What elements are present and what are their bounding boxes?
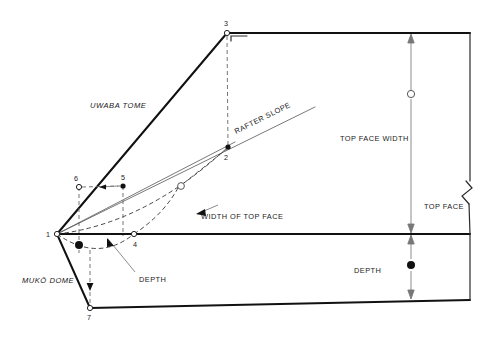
dim-arrow-up-depth-icon — [408, 235, 414, 244]
muko-dome-edge — [57, 234, 90, 308]
dashed-curve-O-to-2 — [184, 148, 228, 183]
point-marker-4-icon — [131, 231, 136, 236]
point-label-3: 3 — [224, 19, 228, 28]
dim-arrow-up-top-face-width-icon — [408, 34, 414, 43]
label-top-face: TOP FACE — [424, 202, 464, 211]
point-label-1: 1 — [46, 230, 50, 239]
point-marker-7-icon — [87, 305, 92, 310]
label-muko-dome: MUKŌ DOME — [22, 276, 75, 285]
arrow-head-5-to-6-icon — [99, 185, 106, 190]
uwaba-tome-edge — [57, 33, 227, 234]
dashed-curve-4-to-O — [134, 188, 178, 234]
roof-geometry-drawing: 1 2 3 4 5 6 7 UWABA TOME MUKŌ DOME RAFTE… — [0, 0, 497, 337]
point-marker-6-icon — [76, 184, 81, 189]
right-edge-mid — [469, 204, 470, 234]
depth-arc-dot-marker-icon — [75, 241, 83, 249]
dim-arrow-down-depth-icon — [408, 290, 414, 299]
label-uwaba-tome: UWABA TOME — [90, 101, 147, 110]
right-angle-tick-icon — [231, 36, 247, 41]
point-marker-1-icon — [54, 231, 59, 236]
arrow-head-down-to-7-icon — [87, 283, 94, 291]
break-symbol-icon — [462, 181, 472, 204]
point-marker-2-icon — [225, 144, 230, 149]
label-rafter-slope: RAFTER SLOPE — [233, 100, 292, 136]
point-label-4: 4 — [133, 240, 137, 249]
point-label-2: 2 — [224, 153, 228, 162]
dashed-arc-1-4-depth — [57, 234, 134, 249]
diagram-canvas: 1 2 3 4 5 6 7 UWABA TOME MUKŌ DOME RAFTE… — [0, 0, 497, 337]
midpoint-circle-marker-icon — [178, 183, 185, 190]
label-depth-left: DEPTH — [139, 275, 166, 284]
depth-dot-marker-icon — [407, 261, 415, 269]
bottom-edge-line — [90, 300, 470, 308]
label-depth-right: DEPTH — [354, 266, 381, 275]
dim-arrow-down-top-face-width-icon — [408, 224, 414, 233]
dashed-vertical-3-2 — [227, 36, 228, 146]
label-top-face-width: TOP FACE WIDTH — [340, 134, 409, 143]
label-width-of-top-face: WIDTH OF TOP FACE — [201, 212, 283, 221]
point-label-7: 7 — [87, 313, 91, 322]
leader-arrow-depth-left-icon — [107, 238, 114, 247]
point-label-5: 5 — [121, 173, 125, 182]
point-marker-3-icon — [224, 30, 229, 35]
point-marker-5-icon — [120, 183, 125, 188]
point-label-6: 6 — [74, 174, 78, 183]
top-face-width-circle-marker-icon — [407, 90, 414, 97]
